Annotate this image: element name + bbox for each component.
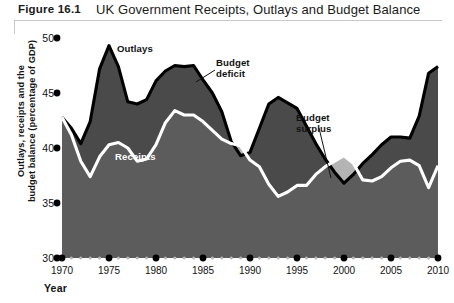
x-axis-tick-dot xyxy=(98,257,101,260)
x-axis-tick-dot xyxy=(183,257,186,260)
annotation-receipts: Receipts xyxy=(115,152,156,163)
x-axis-tick-dot xyxy=(220,257,223,260)
x-axis-tick-dot xyxy=(164,257,167,260)
x-axis-tick-dot xyxy=(314,257,317,260)
x-axis-tick-dot xyxy=(286,257,289,260)
x-axis-tick-dot xyxy=(258,257,261,260)
x-tick-1995: 1995 xyxy=(277,265,317,276)
y-axis-tick-dot xyxy=(54,145,61,152)
x-axis-tick-dot xyxy=(173,257,176,260)
x-tick-2010: 2010 xyxy=(418,265,454,276)
x-axis-tick-dot xyxy=(230,257,233,260)
annotation-budget-surplus-line2: surplus xyxy=(296,124,331,135)
annotation-budget-deficit-line2: deficit xyxy=(216,69,250,80)
x-axis-tick-dot xyxy=(145,257,148,260)
x-axis-tick-dot xyxy=(418,257,421,260)
x-tick-1980: 1980 xyxy=(136,265,176,276)
x-tick-1985: 1985 xyxy=(183,265,223,276)
x-tick-1970: 1970 xyxy=(42,265,82,276)
x-axis-tick-dot xyxy=(294,255,301,262)
x-axis-tick-dot xyxy=(192,257,195,260)
annotation-budget-deficit-line1: Budget xyxy=(216,58,250,69)
x-axis-tick-dot xyxy=(341,255,348,262)
x-axis-tick-dot xyxy=(380,257,383,260)
x-axis-tick-dot xyxy=(79,257,82,260)
annotation-budget-deficit: Budget deficit xyxy=(216,58,250,79)
x-axis-tick-dot xyxy=(333,257,336,260)
x-tick-1990: 1990 xyxy=(230,265,270,276)
x-axis-tick-dot xyxy=(239,257,242,260)
x-axis-tick-dot xyxy=(106,255,113,262)
x-axis-tick-dot xyxy=(59,255,66,262)
x-axis-tick-dot xyxy=(324,257,327,260)
x-axis-tick-dot xyxy=(305,257,308,260)
y-axis-tick-dot xyxy=(54,200,61,207)
x-tick-1975: 1975 xyxy=(89,265,129,276)
x-axis-tick-dot xyxy=(371,257,374,260)
x-tick-2000: 2000 xyxy=(324,265,364,276)
y-tick-45: 45 xyxy=(28,87,54,99)
annotation-budget-surplus-line1: Budget xyxy=(296,113,331,124)
annotation-outlays: Outlays xyxy=(117,44,153,55)
x-axis-tick-dot xyxy=(399,257,402,260)
x-axis-tick-dot xyxy=(70,257,73,260)
x-axis-tick-dot xyxy=(427,257,430,260)
y-tick-35: 35 xyxy=(28,197,54,209)
x-axis-tick-dot xyxy=(200,255,207,262)
x-axis-tick-dot xyxy=(352,257,355,260)
x-axis-tick-dot xyxy=(126,257,129,260)
x-axis-tick-dot xyxy=(247,255,254,262)
x-axis-tick-dot xyxy=(277,257,280,260)
x-tick-2005: 2005 xyxy=(371,265,411,276)
x-axis-tick-dot xyxy=(408,257,411,260)
y-tick-30: 30 xyxy=(28,252,54,264)
x-axis-tick-dot xyxy=(267,257,270,260)
y-tick-40: 40 xyxy=(28,142,54,154)
x-axis-tick-dot xyxy=(361,257,364,260)
x-axis-tick-dot xyxy=(388,255,395,262)
x-axis-tick-dot xyxy=(211,257,214,260)
y-axis-tick-dot xyxy=(54,35,61,42)
y-tick-50: 50 xyxy=(28,32,54,44)
y-axis-tick-dot xyxy=(54,90,61,97)
x-axis-tick-dot xyxy=(136,257,139,260)
x-axis-tick-dot xyxy=(117,257,120,260)
x-axis-tick-dot xyxy=(153,255,160,262)
x-axis-tick-dot xyxy=(435,255,442,262)
x-axis-title: Year xyxy=(44,282,67,294)
annotation-budget-surplus: Budget surplus xyxy=(296,113,331,134)
x-axis-tick-dot xyxy=(89,257,92,260)
